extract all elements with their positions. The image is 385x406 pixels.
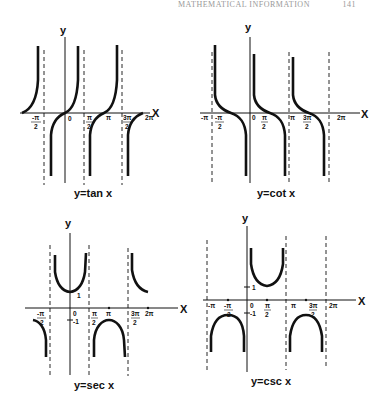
y-axis-label: y: [60, 24, 67, 36]
graph-sec: X y -π 2 0 1 -1 π 2 π 3π: [25, 217, 188, 391]
tick-neg-pi-over-2-den: 2: [40, 319, 44, 326]
tick-zero: 0: [250, 302, 254, 309]
tick-pi: π: [106, 310, 111, 317]
tick-neg-pi: -π: [208, 302, 215, 309]
tick-zero: 0: [252, 114, 256, 121]
tick-neg-one: -1: [250, 310, 256, 317]
x-axis-label: X: [361, 108, 369, 120]
tick-3pi-over-2-den: 2: [311, 311, 315, 318]
tick-pi: π: [291, 302, 296, 309]
tick-3pi-over-2-den: 2: [125, 123, 129, 130]
tick-pi-over-2-num: π: [265, 302, 270, 309]
tick-3pi-over-2-num: 3π: [131, 310, 140, 317]
tick-neg-pi-over-2-den: 2: [218, 123, 222, 130]
x-axis-label: X: [358, 295, 366, 307]
tick-2pi: 2π: [329, 302, 338, 309]
tan-curve: [22, 45, 143, 176]
graph-title: y=csc x: [251, 375, 292, 387]
tick-3pi-over-2-num: 3π: [303, 114, 312, 121]
tick-pi-over-2-num: π: [92, 310, 97, 317]
graph-title: y=sec x: [74, 379, 115, 391]
trig-graphs-figure: X y -π 2 0 π 2 π 3π 2 2π: [0, 0, 385, 406]
tick-pi-over-2-num: π: [262, 114, 267, 121]
tick-one: 1: [77, 292, 81, 299]
tick-neg-pi-over-2-num: -π: [215, 114, 222, 121]
tick-zero: 0: [68, 115, 72, 122]
tick-2pi: 2π: [145, 310, 154, 317]
graph-csc: X y -π -π 2 0 1 -1 π 2 π 3π: [203, 212, 366, 387]
tick-2pi: 2π: [145, 114, 154, 121]
tick-3pi-over-2-den: 2: [133, 319, 137, 326]
tick-2pi: 2π: [337, 114, 346, 121]
y-axis-label: y: [65, 217, 72, 229]
tick-zero: 0: [73, 310, 77, 317]
tick-3pi-over-2-num: 3π: [123, 114, 132, 121]
tick-3pi-over-2-num: 3π: [309, 302, 318, 309]
tick-neg-one: -1: [73, 318, 79, 325]
cot-curve: [215, 45, 324, 176]
tick-neg-pi: -π: [201, 114, 208, 121]
tick-pi-over-2-den: 2: [87, 123, 91, 130]
tick-neg-pi-over-2-num: -π: [37, 310, 44, 317]
tick-pi-over-2-num: π: [87, 114, 92, 121]
y-axis-label: y: [245, 21, 252, 33]
tick-pi: π: [106, 114, 111, 121]
tick-pi-over-2-den: 2: [262, 123, 266, 130]
tick-labels: -π 2 0 1 -1 π 2 π 3π 2 2π: [37, 292, 154, 326]
graph-title: y=cot x: [257, 187, 296, 199]
tick-pi-over-2-den: 2: [265, 311, 269, 318]
tick-neg-pi-over-2-num: -π: [224, 302, 231, 309]
tick-neg-pi-over-2-num: -π: [32, 114, 39, 121]
x-axis-label: X: [180, 303, 188, 315]
graph-tan: X y -π 2 0 π 2 π 3π 2 2π: [20, 24, 160, 199]
tick-3pi-over-2-den: 2: [305, 123, 309, 130]
y-axis-label: y: [242, 212, 249, 224]
tick-one: 1: [252, 284, 256, 291]
asymptotes: [50, 245, 128, 376]
graph-cot: X y -π -π 2 0 π 2 π 3π 2 2π y=cot x: [200, 21, 369, 199]
tick-pi: π: [290, 114, 295, 121]
tick-neg-pi-over-2-den: 2: [227, 311, 231, 318]
graph-title: y=tan x: [74, 187, 113, 199]
tick-neg-pi-over-2-den: 2: [34, 123, 38, 130]
tick-pi-over-2-den: 2: [92, 319, 96, 326]
